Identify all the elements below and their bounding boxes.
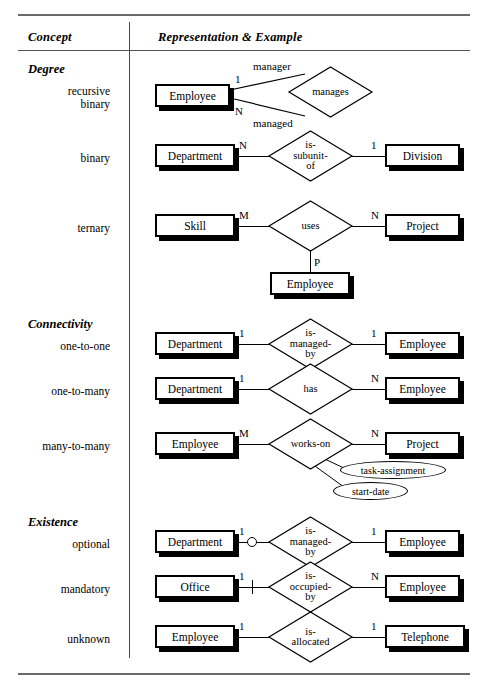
cardinality-label: N: [371, 570, 379, 582]
connector-line: [235, 226, 270, 227]
cardinality-label: N: [235, 105, 243, 117]
cardinality-label: 1: [239, 327, 245, 339]
relationship-diamond: works-on: [268, 418, 353, 470]
relationship-diamond: is- occupied- by: [268, 561, 353, 613]
role-label: manager: [253, 60, 291, 72]
relationship-diamond: has: [268, 363, 353, 415]
entity-box: Employee: [385, 332, 460, 355]
entity-box: Department: [155, 377, 235, 400]
entity-box: Skill: [155, 214, 235, 237]
cardinality-label: P: [314, 256, 320, 268]
entity-box: Department: [155, 144, 235, 167]
cardinality-label: 1: [371, 139, 377, 151]
table-top-rule: [18, 14, 470, 16]
row-label-binary: binary: [10, 152, 110, 165]
cardinality-label: 1: [239, 620, 245, 632]
entity-box: Employee: [155, 84, 230, 107]
row-label-one-to-many: one-to-many: [10, 385, 110, 398]
connector-line: [351, 226, 387, 227]
column-divider: [129, 22, 130, 658]
table-bottom-rule: [18, 673, 470, 675]
connector-line: [351, 156, 387, 157]
entity-box: Department: [155, 530, 235, 553]
entity-box: Employee: [155, 625, 235, 648]
entity-box: Employee: [385, 377, 460, 400]
role-label: managed: [253, 117, 293, 129]
entity-box: Employee: [155, 432, 235, 455]
row-label-one-to-one: one-to-one: [10, 340, 110, 353]
connector-line: [235, 389, 270, 390]
entity-box: Department: [155, 332, 235, 355]
row-label-unknown: unknown: [10, 633, 110, 646]
connector-line: [235, 156, 270, 157]
connector-line: [235, 444, 270, 445]
connector-line: [351, 444, 387, 445]
attribute-oval: task-assignment: [340, 461, 446, 479]
entity-box: Employee: [385, 575, 460, 598]
relationship-diamond: is- subunit- of: [268, 130, 353, 182]
entity-box: Project: [385, 432, 460, 455]
table-header-rule: [18, 50, 470, 51]
column-header-representation: Representation & Example: [158, 30, 302, 45]
entity-box: Project: [385, 214, 460, 237]
connector-line: [235, 637, 270, 638]
entity-box: Employee: [385, 530, 460, 553]
er-notation-reference-table: Concept Representation & Example Degree …: [0, 0, 490, 687]
cardinality-label: M: [239, 209, 249, 221]
connector-line: [351, 637, 387, 638]
mandatory-existence-tick-icon: [252, 580, 253, 594]
cardinality-label: N: [371, 372, 379, 384]
entity-box: Division: [385, 144, 460, 167]
connector-line: [351, 542, 387, 543]
cardinality-label: 1: [371, 620, 377, 632]
cardinality-label: 1: [371, 525, 377, 537]
row-label-many-to-many: many-to-many: [10, 440, 110, 453]
section-heading-degree: Degree: [28, 62, 65, 77]
cardinality-label: 1: [239, 525, 245, 537]
entity-box: Employee: [270, 272, 350, 295]
row-label-recursive-binary: recursive binary: [10, 85, 110, 111]
cardinality-label: 1: [239, 372, 245, 384]
connector-line: [235, 344, 270, 345]
column-header-concept: Concept: [28, 30, 72, 45]
relationship-diamond: manages: [288, 66, 373, 118]
cardinality-label: 1: [371, 327, 377, 339]
cardinality-label: N: [371, 209, 379, 221]
cardinality-label: 1: [235, 73, 241, 85]
attribute-oval: start-date: [333, 482, 408, 500]
cardinality-label: 1: [239, 570, 245, 582]
connector-line: [351, 389, 387, 390]
entity-box: Telephone: [385, 625, 465, 648]
entity-box: Office: [155, 575, 235, 598]
cardinality-label: M: [239, 427, 249, 439]
relationship-diamond: uses: [268, 200, 353, 252]
optional-existence-circle-icon: [247, 537, 257, 547]
connector-line: [351, 587, 387, 588]
row-label-optional: optional: [10, 538, 110, 551]
cardinality-label: N: [239, 139, 247, 151]
section-heading-connectivity: Connectivity: [28, 317, 93, 332]
row-label-ternary: ternary: [10, 222, 110, 235]
row-label-mandatory: mandatory: [10, 583, 110, 596]
connector-line: [351, 344, 387, 345]
cardinality-label: N: [371, 427, 379, 439]
section-heading-existence: Existence: [28, 515, 78, 530]
relationship-diamond: is- allocated: [268, 611, 353, 663]
